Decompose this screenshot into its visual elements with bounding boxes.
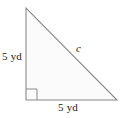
left-leg-length-label: 5 yd bbox=[2, 50, 22, 62]
hypotenuse-label: c bbox=[76, 42, 81, 54]
right-triangle-figure: 5 yd 5 yd c bbox=[0, 0, 121, 118]
triangle-shape bbox=[26, 8, 117, 100]
bottom-leg-length-label: 5 yd bbox=[58, 101, 78, 113]
